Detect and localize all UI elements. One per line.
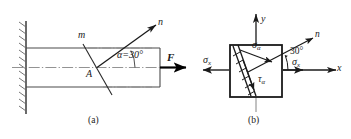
- figure-root: m A n α=30° F (a) y x n 30° σα τα σx σx …: [0, 0, 351, 139]
- caption-a: (a): [88, 116, 99, 126]
- label-point-A: A: [86, 69, 92, 79]
- label-force-F: F: [167, 52, 174, 63]
- label-normal-n-b: n: [315, 30, 320, 40]
- tau-alpha-subscript: α: [262, 78, 266, 85]
- label-section-m: m: [78, 30, 85, 40]
- label-axis-y: y: [261, 14, 265, 24]
- sigma-x-right-subscript: x: [297, 61, 300, 68]
- figure-canvas: [0, 0, 351, 139]
- label-normal-n-a: n: [158, 17, 163, 27]
- label-sigma-x-right: σx: [292, 57, 300, 68]
- label-angle-alpha: α=30°: [117, 50, 143, 60]
- angle-arc-b: [285, 55, 288, 70]
- normal-direction-arrow-a: [97, 25, 156, 68]
- sigma-x-left-subscript: x: [208, 59, 211, 66]
- sigma-alpha-subscript: α: [257, 44, 261, 51]
- label-tau-alpha: τα: [258, 74, 265, 85]
- label-sigma-x-left: σx: [203, 55, 211, 66]
- caption-b: (b): [248, 116, 259, 126]
- label-sigma-alpha: σα: [252, 40, 261, 51]
- label-axis-x: x: [337, 63, 341, 73]
